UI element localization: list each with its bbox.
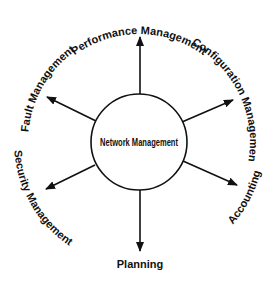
label-security-management: Security Management [12, 149, 75, 247]
label-accounting: Accounting [225, 169, 262, 226]
arrow-accounting [183, 161, 237, 185]
label-fault-management: Fault Management [18, 43, 76, 133]
network-management-diagram: Network Management Fault Management Perf… [0, 0, 275, 287]
arrow-configuration [182, 100, 233, 122]
center-node-label: Network Management [100, 136, 178, 148]
label-performance-management: Performance Management [69, 24, 210, 57]
arrow-security [46, 165, 95, 189]
label-planning: Planning [117, 258, 163, 270]
arrow-fault [47, 97, 96, 121]
